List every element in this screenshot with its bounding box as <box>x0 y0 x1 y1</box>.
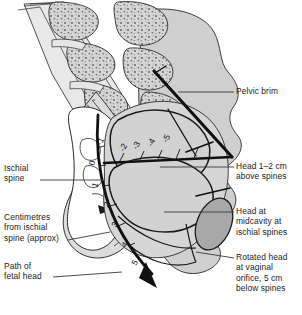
label-pelvic-brim: Pelvic brim <box>236 86 278 96</box>
label-head-above-spines: Head 1–2 cm above spines <box>236 161 287 182</box>
leader-path-of-fetal-head <box>53 272 122 277</box>
label-rotated-head: Rotated head at vaginal orifice, 5 cm be… <box>236 252 288 294</box>
fetal-head-descent-figure: -2 -3 -4 -5 -1 0 1 2 3 4 5 Pelvic brim H… <box>0 0 302 315</box>
label-centimetres-from-ischial-spine: Centimetres from ischial spine (approx) <box>4 212 59 243</box>
label-path-of-fetal-head: Path of fetal head <box>4 261 42 282</box>
label-head-midcavity: Head at midcavity at ischial spines <box>236 206 287 237</box>
arrowhead-fetal-path <box>139 262 157 288</box>
label-ischial-spine: Ischial spine <box>4 163 28 184</box>
